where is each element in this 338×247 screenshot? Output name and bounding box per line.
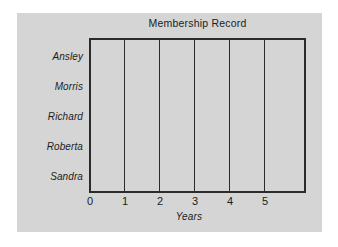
x-tick-label-4: 4 [218,195,242,207]
x-axis-title: Years [89,211,289,222]
x-tick-label-2: 2 [148,195,172,207]
chart-title: Membership Record [89,17,306,29]
category-label-richard: Richard [48,111,83,122]
chart-figure: Membership Record Ansley Morris Richard … [0,0,338,247]
x-tick-label-0: 0 [78,195,102,207]
bars-layer [89,38,306,193]
category-label-roberta: Roberta [47,141,83,152]
x-tick-label-5: 5 [253,195,277,207]
x-tick-label-1: 1 [113,195,137,207]
category-label-morris: Morris [55,81,83,92]
category-label-ansley: Ansley [52,51,83,62]
x-tick-label-3: 3 [183,195,207,207]
category-label-sandra: Sandra [50,171,83,182]
